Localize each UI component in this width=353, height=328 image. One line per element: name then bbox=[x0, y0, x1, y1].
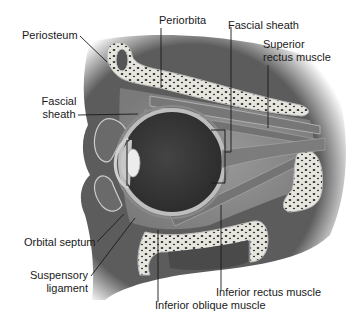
label-fascial-sheath-top: Fascial sheath bbox=[228, 19, 299, 32]
lens bbox=[126, 149, 140, 177]
label-superior-rectus-line2: rectus muscle bbox=[263, 51, 331, 64]
label-suspensory-line1: Suspensory bbox=[30, 269, 88, 282]
label-suspensory-line2: ligament bbox=[30, 282, 88, 295]
label-periorbita: Periorbita bbox=[159, 14, 206, 27]
label-inferior-oblique: Inferior oblique muscle bbox=[155, 299, 266, 312]
label-inferior-rectus: Inferior rectus muscle bbox=[216, 286, 321, 299]
label-superior-rectus-line1: Superior bbox=[263, 38, 305, 51]
label-periosteum: Periosteum bbox=[22, 29, 78, 42]
label-orbital-septum: Orbital septum bbox=[24, 236, 96, 249]
orbit-diagram: Periosteum Periorbita Fascial sheath Sup… bbox=[0, 0, 353, 328]
label-fascial-sheath-left-line1: Fascial bbox=[38, 95, 80, 108]
label-fascial-sheath-left-line2: sheath bbox=[38, 108, 80, 121]
